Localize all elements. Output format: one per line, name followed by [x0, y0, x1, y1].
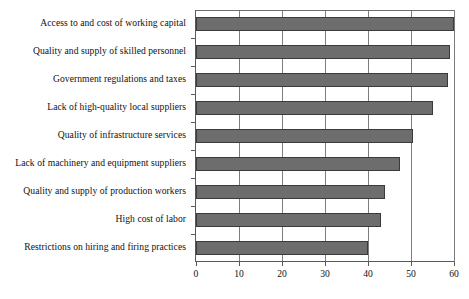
category-label: Quality of infrastructure services: [58, 130, 186, 140]
x-axis-tick: [368, 262, 369, 266]
x-axis-tick-label: 20: [277, 268, 287, 279]
category-label: Quality and supply of production workers: [23, 186, 186, 196]
bar: [196, 185, 385, 199]
x-axis-tick-label: 40: [363, 268, 373, 279]
bar: [196, 157, 400, 171]
category-label: Quality and supply of skilled personnel: [33, 46, 186, 56]
x-axis-tick-label: 30: [320, 268, 330, 279]
x-axis-tick: [196, 262, 197, 266]
x-axis-tick-label: 50: [406, 268, 416, 279]
x-axis-tick: [454, 262, 455, 266]
y-axis-tick: [191, 234, 195, 235]
bar-chart: Access to and cost of working capitalQua…: [0, 0, 469, 299]
x-axis-tick-label: 10: [234, 268, 244, 279]
x-axis-tick: [325, 262, 326, 266]
bar: [196, 45, 450, 59]
bar: [196, 213, 381, 227]
x-axis: 0102030405060: [195, 262, 455, 292]
category-label: High cost of labor: [116, 214, 186, 224]
y-axis-tick: [191, 94, 195, 95]
category-axis-labels: Access to and cost of working capitalQua…: [0, 10, 190, 262]
x-axis-tick-label: 0: [194, 268, 199, 279]
y-axis-tick: [191, 206, 195, 207]
y-axis-tick: [191, 122, 195, 123]
bar: [196, 73, 448, 87]
x-axis-tick: [282, 262, 283, 266]
bar: [196, 129, 413, 143]
y-axis-tick: [191, 66, 195, 67]
bar: [196, 241, 368, 255]
x-axis-tick: [239, 262, 240, 266]
y-axis-tick: [191, 178, 195, 179]
y-axis-tick: [191, 150, 195, 151]
bar: [196, 17, 454, 31]
category-label: Government regulations and taxes: [53, 74, 186, 84]
x-axis-tick: [411, 262, 412, 266]
x-axis-tick-label: 60: [449, 268, 459, 279]
category-label: Access to and cost of working capital: [40, 18, 186, 28]
y-axis-tick: [191, 38, 195, 39]
bar: [196, 101, 433, 115]
gridline-60: [454, 11, 455, 261]
category-label: Lack of machinery and equipment supplier…: [15, 158, 186, 168]
plot-area: [195, 10, 455, 262]
category-label: Restrictions on hiring and firing practi…: [24, 242, 186, 252]
category-label: Lack of high-quality local suppliers: [47, 102, 186, 112]
